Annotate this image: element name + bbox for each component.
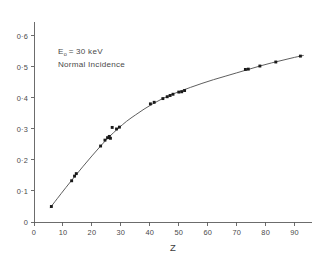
- data-point-marker: [274, 61, 277, 64]
- x-tick-label: 10: [59, 228, 68, 237]
- data-point-marker: [118, 126, 121, 129]
- x-tick-label: 0: [32, 228, 36, 237]
- x-tick-label: 90: [290, 228, 299, 237]
- data-point-marker: [180, 90, 183, 93]
- x-tick-label: 20: [88, 228, 97, 237]
- data-point-marker: [244, 68, 247, 71]
- data-point-marker: [70, 179, 73, 182]
- data-point-marker: [99, 145, 102, 148]
- data-point-marker: [299, 55, 302, 58]
- y-tick-label: 0·4: [17, 94, 28, 103]
- data-point-marker: [177, 91, 180, 94]
- plot-background: [0, 0, 326, 267]
- data-point-marker: [161, 97, 164, 100]
- x-tick-label: 30: [117, 228, 126, 237]
- y-tick-label: 0·6: [17, 32, 28, 41]
- data-point-marker: [149, 102, 152, 105]
- data-point-marker: [258, 65, 261, 68]
- data-point-marker: [247, 68, 250, 71]
- data-point-marker: [75, 172, 78, 175]
- data-point-marker: [169, 94, 172, 97]
- data-point-marker: [153, 101, 156, 104]
- x-tick-label: 70: [232, 228, 241, 237]
- data-point-marker: [172, 93, 175, 96]
- x-tick-label: 40: [146, 228, 155, 237]
- y-tick-label: 0: [24, 218, 28, 227]
- y-tick-label: 0·2: [17, 156, 28, 165]
- data-point-marker: [166, 95, 169, 98]
- scatter-plot: 00·10·20·30·40·50·6 0102030405060708090 …: [0, 0, 326, 267]
- data-point-marker: [183, 89, 186, 92]
- x-tick-label: 80: [261, 228, 270, 237]
- data-point-marker: [111, 126, 114, 129]
- x-axis-title: Z: [170, 242, 176, 253]
- x-tick-label: 50: [174, 228, 183, 237]
- data-point-marker: [109, 137, 112, 140]
- y-tick-label: 0·3: [17, 125, 28, 134]
- data-point-marker: [104, 139, 107, 142]
- data-point-marker: [50, 205, 53, 208]
- annotation-incidence: Normal Incidence: [58, 60, 125, 69]
- data-point-marker: [73, 175, 76, 178]
- y-tick-label: 0·1: [17, 187, 28, 196]
- x-axis-title-label: Z: [170, 242, 176, 253]
- data-point-marker: [115, 128, 118, 131]
- y-tick-label: 0·5: [17, 63, 28, 72]
- chart-figure: 00·10·20·30·40·50·6 0102030405060708090 …: [0, 0, 326, 267]
- x-tick-label: 60: [203, 228, 212, 237]
